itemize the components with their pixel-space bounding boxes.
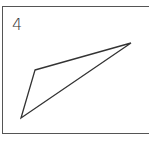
triangle-figure (0, 0, 149, 141)
triangle-shape (21, 43, 131, 118)
